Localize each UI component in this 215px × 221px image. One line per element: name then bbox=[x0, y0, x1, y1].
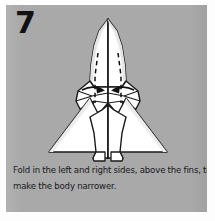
tail-foot-right bbox=[111, 152, 123, 161]
page-root: 7 bbox=[0, 0, 215, 221]
instruction-caption: Fold in the left and right sides, above … bbox=[13, 163, 203, 194]
origami-diagram bbox=[6, 13, 207, 163]
instruction-panel: 7 bbox=[6, 5, 207, 212]
caption-line-2: make the body narrower. bbox=[13, 179, 203, 195]
tail-foot-left bbox=[93, 152, 105, 161]
caption-line-1: Fold in the left and right sides, above … bbox=[13, 163, 203, 179]
